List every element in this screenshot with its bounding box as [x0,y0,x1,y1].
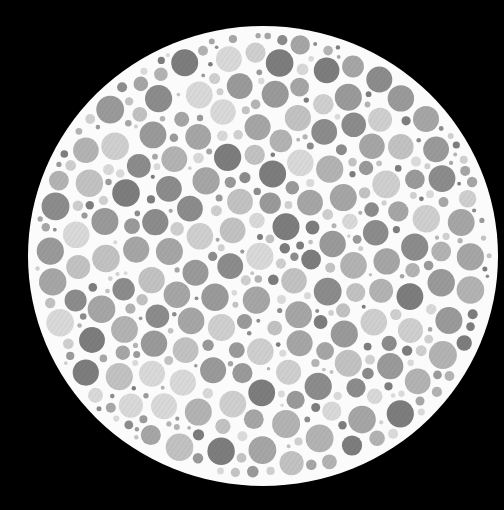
dot-hatch-texture [459,190,477,208]
dot-hatch-texture [39,268,66,295]
dot [86,201,94,209]
dot-hatch-texture [245,145,265,165]
dot-hatch-texture [249,436,277,464]
dot-hatch-texture [101,132,129,160]
dot-hatch-texture [311,119,337,145]
dot-hatch-texture [423,136,449,162]
dot-hatch-texture [193,429,204,440]
dot-hatch-texture [306,460,317,471]
dot [133,343,138,348]
dot [117,82,127,92]
dot [161,386,165,390]
dot [458,238,463,243]
dot-hatch-texture [170,222,184,236]
dot [97,406,102,411]
dot-hatch-texture [217,130,228,141]
dot [115,272,119,276]
dot [486,274,490,278]
dot [254,275,262,283]
dot-hatch-texture [314,58,340,84]
dot-hatch-texture [291,35,310,54]
dot [206,148,212,154]
dot [218,244,225,251]
dot [410,192,417,199]
dot-hatch-texture [96,96,124,124]
dot-hatch-texture [241,275,251,285]
dot [113,416,119,422]
dot [435,236,439,240]
dot-hatch-texture [297,190,323,216]
dot [242,106,250,114]
dot-hatch-texture [156,176,182,202]
dot [53,228,57,232]
dot-hatch-texture [297,64,309,76]
dot-hatch-texture [301,250,321,270]
dot-hatch-texture [66,255,90,279]
dot-hatch-texture [112,179,140,207]
dot [439,126,444,131]
dot-hatch-texture [73,201,84,212]
dot [132,360,138,366]
dot [38,216,43,221]
dot-hatch-texture [388,134,414,160]
dot [177,93,181,97]
dot-hatch-texture [336,303,350,317]
dot [110,394,115,399]
dot [308,240,313,245]
dot [453,141,460,148]
dot-hatch-texture [207,438,234,465]
dot [487,253,492,258]
dot-hatch-texture [285,301,312,328]
dot [353,235,362,244]
dot-hatch-texture [145,85,172,112]
dot-hatch-texture [273,213,300,240]
dot [322,368,326,372]
dot-hatch-texture [387,400,414,427]
dot [358,211,362,215]
dot [285,201,293,209]
dot-hatch-texture [209,73,220,84]
dot [277,308,282,313]
dot [257,234,263,240]
dot-hatch-texture [435,307,462,334]
dot [174,424,180,430]
dot [369,273,373,277]
dot-hatch-texture [266,49,294,77]
dot [96,125,101,130]
dot [232,290,238,296]
dot [175,417,179,421]
dot-hatch-texture [276,360,301,385]
dot-hatch-texture [276,259,286,269]
dot [89,283,98,292]
dot-hatch-texture [138,267,164,293]
dot [132,386,136,390]
dot-hatch-texture [342,435,362,455]
dot [100,355,108,363]
dot-hatch-texture [216,46,242,72]
dot [66,352,74,360]
dot [338,421,346,429]
dot-hatch-texture [322,402,341,421]
dot [154,163,161,170]
dot-hatch-texture [248,379,275,406]
dot [328,310,334,316]
dot [133,351,140,358]
dot-hatch-texture [193,167,220,194]
dot-hatch-texture [267,321,282,336]
dot [330,370,334,374]
dot-hatch-texture [322,454,337,469]
dot [358,246,363,251]
dot-hatch-texture [88,295,116,323]
dot-hatch-texture [154,67,168,81]
dot-hatch-texture [285,105,311,131]
dot [313,42,317,46]
dot-hatch-texture [341,113,366,138]
dot-hatch-texture [246,243,273,270]
dot-hatch-texture [359,187,370,198]
dot [307,143,314,150]
dot-hatch-texture [139,361,165,387]
dot-hatch-texture [124,218,140,234]
dot [296,242,304,250]
dot-hatch-texture [457,276,485,304]
dot [134,125,138,129]
